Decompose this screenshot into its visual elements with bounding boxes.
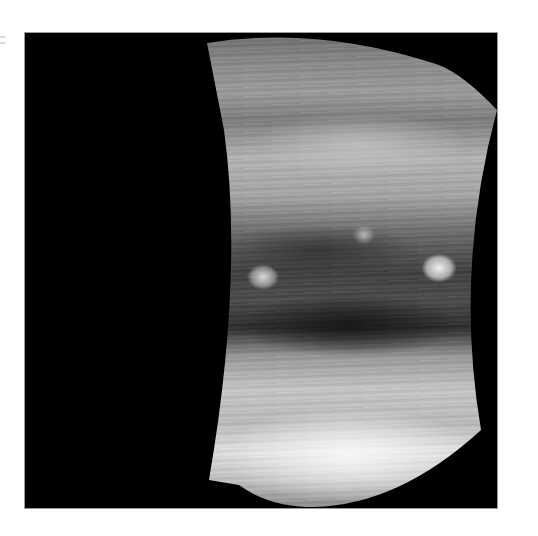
edge-marks [0,36,6,52]
image-frame [24,32,498,509]
jupiter-image [199,35,498,508]
